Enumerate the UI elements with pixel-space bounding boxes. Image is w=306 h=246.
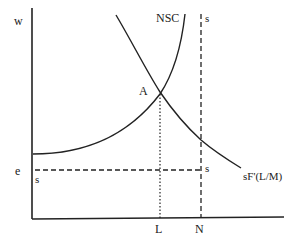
demand-curve-label: sF'(L/M)	[243, 170, 283, 183]
supply-top-label: s	[205, 12, 209, 24]
nsc-label: NSC	[156, 11, 179, 25]
supply-corner-label: s	[205, 162, 209, 174]
supply-left-label: s	[35, 173, 39, 185]
labor-market-diagram: w NSC s A e s s sF'(L/M) L N	[0, 0, 306, 246]
nsc-curve	[33, 14, 185, 154]
x-axis-N-label: N	[195, 222, 204, 236]
x-axis-L-label: L	[155, 222, 162, 236]
wage-e-label: e	[15, 164, 20, 178]
point-A-label: A	[139, 84, 148, 98]
y-axis-label: w	[14, 14, 23, 28]
demand-curve	[116, 15, 241, 168]
x-axis	[32, 217, 284, 219]
